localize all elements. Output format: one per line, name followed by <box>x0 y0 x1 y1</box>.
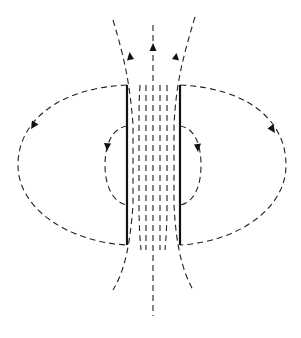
field-line-diagram <box>0 0 301 338</box>
outer-loop-right <box>180 85 286 245</box>
arrow-top-right-icon <box>172 53 179 61</box>
arrow-top-center-icon <box>150 43 157 51</box>
arrow-inner-left-icon <box>104 143 111 151</box>
arrow-outer-left-icon <box>31 121 39 130</box>
inner-loop-left <box>105 126 127 205</box>
outer-loop-left <box>18 85 127 245</box>
inner-loop-right <box>180 126 201 205</box>
interior-field-lines <box>113 17 195 316</box>
arrow-top-left-icon <box>127 52 134 61</box>
